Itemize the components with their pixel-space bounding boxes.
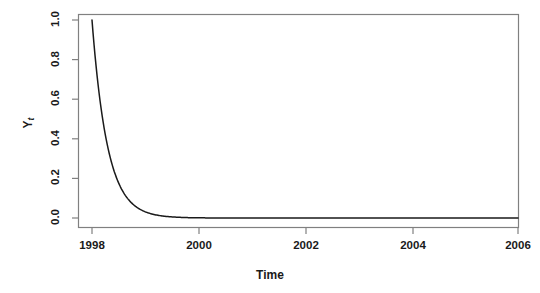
x-axis-title: Time — [0, 268, 540, 282]
x-axis-ticks — [92, 228, 518, 235]
plot-box — [79, 15, 519, 228]
y-axis-title: Yt — [21, 103, 35, 143]
y-axis-ticks — [72, 20, 79, 218]
data-curve-line — [92, 20, 518, 218]
x-tick-label-2002: 2002 — [286, 239, 326, 251]
y-axis-title-subscript: t — [26, 118, 36, 121]
y-tick-label-0-6: 0.6 — [49, 83, 61, 113]
x-tick-label-2000: 2000 — [179, 239, 219, 251]
x-tick-label-2004: 2004 — [393, 239, 433, 251]
y-tick-label-0-2: 0.2 — [49, 162, 61, 192]
y-axis-title-base: Y — [21, 120, 35, 128]
x-tick-label-1998: 1998 — [72, 239, 112, 251]
y-tick-label-0-0: 0.0 — [49, 202, 61, 232]
y-tick-label-0-4: 0.4 — [49, 123, 61, 153]
y-axis-title-wrapper: Yt — [14, 104, 42, 144]
y-tick-label-0-8: 0.8 — [49, 44, 61, 74]
y-tick-label-1-0: 1.0 — [49, 4, 61, 34]
plot-figure: 1.0 0.8 0.6 0.4 0.2 0.0 1998 2000 2002 2… — [0, 0, 540, 293]
x-tick-label-2006: 2006 — [498, 239, 538, 251]
